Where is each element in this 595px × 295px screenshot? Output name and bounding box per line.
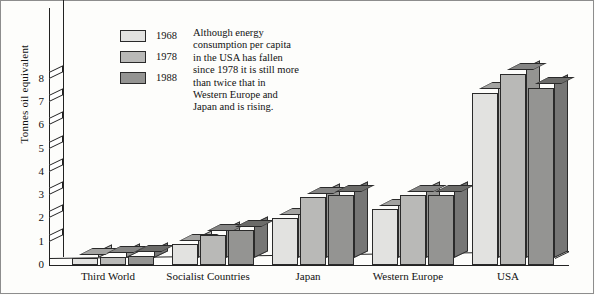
y-tick-step: [49, 181, 63, 195]
bar-front-face: [100, 257, 126, 265]
bar-front-face: [472, 93, 498, 265]
bar-front-face: [200, 235, 226, 265]
y-tick-label: 4: [30, 165, 44, 177]
bar-side-face: [454, 181, 468, 258]
category-label-western-europe: Western Europe: [366, 270, 450, 282]
legend-swatch-1968: [120, 30, 146, 42]
legend-swatch-1988: [120, 72, 146, 84]
y-tick-label: 5: [30, 142, 44, 154]
y-tick-label: 7: [30, 95, 44, 107]
y-axis-back-line: [63, 0, 64, 257]
y-tick-label: 3: [30, 188, 44, 200]
bar-front-face: [172, 244, 198, 265]
bar-front-face: [400, 195, 426, 265]
y-tick-step: [49, 205, 63, 219]
bar-side-face: [354, 181, 368, 258]
bar-1978-third-world: [100, 250, 126, 265]
y-tick-step: [49, 111, 63, 125]
bar-top-face: [335, 185, 375, 192]
bar-front-face: [528, 88, 554, 265]
bar-1988-western-europe: [428, 188, 454, 265]
y-tick-step: [49, 228, 63, 242]
category-label-usa: USA: [466, 270, 550, 282]
bar-front-face: [300, 197, 326, 265]
bar-top-face: [535, 77, 575, 84]
bar-1968-western-europe: [372, 202, 398, 265]
bar-top-face: [235, 220, 275, 227]
category-label-japan: Japan: [266, 270, 350, 282]
y-tick-label: 2: [30, 211, 44, 223]
bar-1968-usa: [472, 86, 498, 265]
y-axis-front-line: [49, 8, 50, 265]
chart-canvas: Tonnes oil equivalent 012345678 Third Wo…: [0, 0, 595, 295]
bar-1988-third-world: [128, 249, 154, 265]
legend-label-1978: 1978: [156, 51, 177, 62]
legend-label-1988: 1988: [156, 72, 177, 83]
bar-top-face: [507, 63, 547, 70]
x-axis-baseline: [49, 265, 569, 266]
bar-front-face: [328, 195, 354, 265]
y-axis-label: Tonnes oil equivalent: [18, 24, 30, 164]
bar-1978-socialist-countries: [200, 228, 226, 265]
bar-1968-japan: [272, 211, 298, 265]
bar-front-face: [500, 74, 526, 265]
bar-1978-western-europe: [400, 188, 426, 265]
bar-1988-japan: [328, 188, 354, 265]
y-tick-step: [49, 158, 63, 172]
bar-front-face: [228, 230, 254, 265]
y-tick-label: 1: [30, 235, 44, 247]
bar-1988-socialist-countries: [228, 223, 254, 265]
bar-1968-socialist-countries: [172, 237, 198, 265]
category-label-third-world: Third World: [66, 270, 150, 282]
y-tick-step: [49, 65, 63, 79]
legend-swatch-1978: [120, 51, 146, 63]
y-tick-step: [49, 88, 63, 102]
bar-1978-japan: [300, 190, 326, 265]
bar-1968-third-world: [72, 251, 98, 265]
bar-front-face: [128, 256, 154, 265]
bar-front-face: [372, 209, 398, 265]
y-tick-step: [49, 135, 63, 149]
y-tick-label: 0: [30, 258, 44, 270]
bar-front-face: [272, 218, 298, 265]
bar-1988-usa: [528, 81, 554, 265]
bar-front-face: [428, 195, 454, 265]
bar-front-face: [72, 258, 98, 265]
legend-label-1968: 1968: [156, 30, 177, 41]
annotation-text: Although energy consumption per capita i…: [193, 27, 301, 114]
bar-1978-usa: [500, 67, 526, 265]
bar-side-face: [554, 74, 568, 258]
y-tick-label: 8: [30, 72, 44, 84]
category-label-socialist-countries: Socialist Countries: [166, 270, 250, 282]
y-tick-label: 6: [30, 118, 44, 130]
